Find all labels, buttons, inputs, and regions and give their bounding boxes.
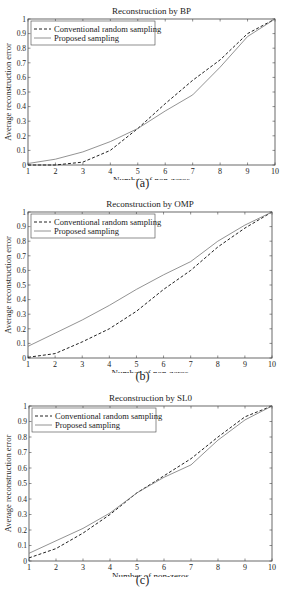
y-tick-label: 0.6: [17, 73, 27, 82]
chart-title: Reconstruction by BP: [112, 6, 191, 16]
y-tick-label: 0.9: [17, 222, 27, 231]
caption-c: (c): [0, 573, 285, 588]
y-tick-label: 0.9: [17, 29, 27, 38]
y-tick-label: 0.3: [17, 310, 27, 319]
legend-entry: Proposed sampling: [55, 420, 121, 430]
y-tick-label: 0.3: [18, 510, 28, 519]
y-tick-label: 0.2: [17, 325, 27, 334]
y-tick-label: 0.1: [17, 339, 27, 348]
y-tick-label: 0.5: [17, 281, 27, 290]
y-tick-label: 0.3: [17, 117, 27, 126]
x-tick-label: 10: [268, 360, 276, 369]
y-tick-label: 0.6: [18, 464, 28, 473]
y-tick-label: 0.6: [17, 266, 27, 275]
legend-entry: Proposed sampling: [54, 226, 120, 236]
chart-bp: Reconstruction by BP1234567891000.10.20.…: [0, 0, 285, 180]
x-tick-label: 9: [243, 563, 247, 572]
x-tick-label: 1: [26, 167, 30, 176]
x-tick-label: 1: [27, 563, 31, 572]
y-tick-label: 1: [22, 15, 26, 24]
y-axis-label: Average reconstruction error: [3, 435, 13, 533]
x-tick-label: 4: [108, 167, 112, 176]
y-axis-label: Average reconstruction error: [3, 236, 13, 334]
caption-a: (a): [0, 176, 285, 191]
y-tick-label: 0.8: [18, 433, 28, 442]
chart-omp: Reconstruction by OMP1234567891000.10.20…: [0, 193, 285, 373]
x-tick-label: 7: [189, 360, 193, 369]
y-tick-label: 0: [22, 354, 26, 363]
chart-panel-bp: Reconstruction by BP1234567891000.10.20.…: [0, 0, 285, 195]
x-tick-label: 8: [218, 167, 222, 176]
y-tick-label: 0.7: [17, 252, 27, 261]
y-tick-label: 0.1: [17, 146, 27, 155]
legend-entry: Proposed sampling: [54, 33, 120, 43]
x-tick-label: 2: [53, 167, 57, 176]
chart-panel-sl0: Reconstruction by SL01234567891000.10.20…: [0, 393, 285, 597]
y-tick-label: 0.8: [17, 44, 27, 53]
y-tick-label: 0.4: [17, 102, 27, 111]
caption-b: (b): [0, 369, 285, 384]
y-tick-label: 1: [22, 208, 26, 217]
x-tick-label: 1: [26, 360, 30, 369]
x-tick-label: 3: [81, 563, 85, 572]
y-tick-label: 0.2: [17, 132, 27, 141]
chart-title: Reconstruction by SL0: [109, 393, 192, 403]
y-tick-label: 0.8: [17, 237, 27, 246]
x-tick-label: 2: [54, 563, 58, 572]
x-tick-label: 2: [53, 360, 57, 369]
x-tick-label: 7: [189, 563, 193, 572]
chart-sl0: Reconstruction by SL01234567891000.10.20…: [0, 393, 285, 577]
x-tick-label: 7: [191, 167, 195, 176]
y-tick-label: 0.4: [17, 295, 27, 304]
x-tick-label: 9: [246, 167, 250, 176]
y-tick-label: 0.7: [18, 448, 28, 457]
y-tick-label: 0.9: [18, 417, 28, 426]
y-tick-label: 0.5: [18, 479, 28, 488]
y-tick-label: 0.2: [18, 526, 28, 535]
x-tick-label: 8: [216, 360, 220, 369]
y-tick-label: 0: [23, 557, 27, 566]
chart-panel-omp: Reconstruction by OMP1234567891000.10.20…: [0, 193, 285, 393]
y-axis-label: Average reconstruction error: [3, 43, 13, 141]
x-tick-label: 3: [80, 360, 84, 369]
x-tick-label: 10: [268, 563, 276, 572]
y-tick-label: 0.5: [17, 88, 27, 97]
y-tick-label: 1: [23, 402, 27, 411]
y-tick-label: 0.4: [18, 495, 28, 504]
y-tick-label: 0: [22, 161, 26, 170]
y-tick-label: 0.7: [17, 59, 27, 68]
y-tick-label: 0.1: [18, 541, 28, 550]
x-tick-label: 8: [216, 563, 220, 572]
x-tick-label: 9: [243, 360, 247, 369]
chart-title: Reconstruction by OMP: [106, 199, 194, 209]
x-tick-label: 10: [271, 167, 279, 176]
x-tick-label: 3: [81, 167, 85, 176]
